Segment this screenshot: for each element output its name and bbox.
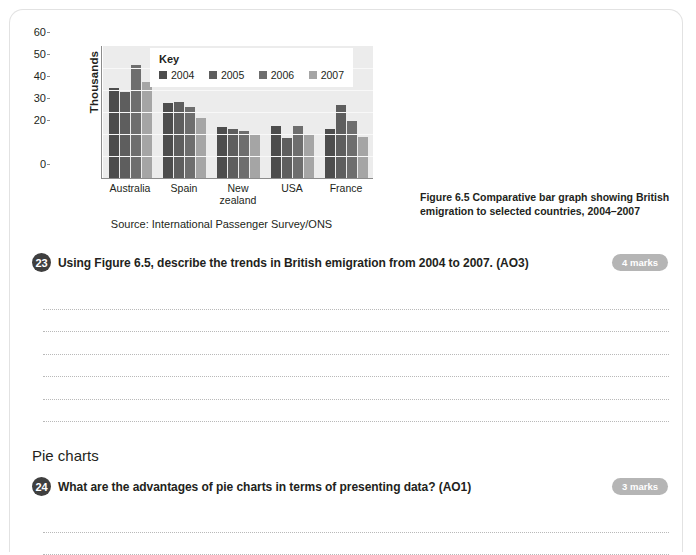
legend-items: 2004200520062007 xyxy=(159,69,344,81)
question-text-23: Using Figure 6.5, describe the trends in… xyxy=(58,256,612,270)
x-axis-label: Australia xyxy=(103,182,157,206)
question-row-24: 24 What are the advantages of pie charts… xyxy=(32,477,668,496)
x-axis-line xyxy=(101,178,373,179)
answer-line[interactable] xyxy=(43,377,669,400)
y-axis-title: Thousands xyxy=(88,34,100,130)
legend-title: Key xyxy=(159,53,344,65)
x-axis-label: France xyxy=(319,182,373,206)
answer-line[interactable] xyxy=(43,533,669,555)
question-text-24: What are the advantages of pie charts in… xyxy=(58,480,612,494)
y-tick-label: 30 xyxy=(34,92,46,104)
x-axis-label: Newzealand xyxy=(211,182,265,206)
legend-item-2005: 2005 xyxy=(209,69,244,81)
figure-block: Thousands 02030405060 AustraliaSpainNewz… xyxy=(54,32,674,237)
x-axis-label: USA xyxy=(265,182,319,206)
question-row-23: 23 Using Figure 6.5, describe the trends… xyxy=(32,253,668,272)
bar-france-2006 xyxy=(347,121,357,178)
question-number-24: 24 xyxy=(32,477,51,496)
bar-new-zealand-2005 xyxy=(228,129,238,178)
gridline xyxy=(103,156,373,157)
chart-legend: Key 2004200520062007 xyxy=(150,48,353,87)
y-tick-label: 60 xyxy=(34,26,46,38)
y-tick-label: 20 xyxy=(34,114,46,126)
question-number-23: 23 xyxy=(32,253,51,272)
figure-caption: Figure 6.5 Comparative bar graph showing… xyxy=(420,190,678,218)
y-tick-label: 50 xyxy=(34,48,46,60)
x-axis-labels: AustraliaSpainNewzealandUSAFrance xyxy=(103,182,373,206)
legend-label: 2006 xyxy=(271,69,294,81)
worksheet-card: Thousands 02030405060 AustraliaSpainNewz… xyxy=(9,9,683,552)
section-heading: Pie charts xyxy=(32,447,99,464)
bar-spain-2007 xyxy=(196,118,206,178)
gridline xyxy=(103,134,373,135)
bar-australia-2007 xyxy=(142,82,152,178)
legend-swatch-icon xyxy=(159,71,167,79)
bar-france-2004 xyxy=(325,129,335,178)
bar-spain-2004 xyxy=(163,103,173,178)
legend-swatch-icon xyxy=(209,71,217,79)
legend-label: 2007 xyxy=(321,69,344,81)
answer-line[interactable] xyxy=(43,355,669,378)
bar-australia-2004 xyxy=(109,88,119,178)
legend-item-2004: 2004 xyxy=(159,69,194,81)
bar-france-2005 xyxy=(336,105,346,178)
gridline xyxy=(103,90,373,91)
bar-france-2007 xyxy=(358,137,368,178)
legend-swatch-icon xyxy=(259,71,267,79)
answer-line[interactable] xyxy=(43,332,669,355)
legend-label: 2005 xyxy=(221,69,244,81)
legend-swatch-icon xyxy=(309,71,317,79)
answer-line[interactable] xyxy=(43,310,669,333)
y-tick-label: 40 xyxy=(34,70,46,82)
bar-chart: Thousands 02030405060 AustraliaSpainNewz… xyxy=(54,32,379,237)
answer-line[interactable] xyxy=(43,287,669,310)
legend-item-2006: 2006 xyxy=(259,69,294,81)
bar-australia-2006 xyxy=(131,65,141,178)
answer-lines-23[interactable] xyxy=(43,287,669,422)
marks-badge-23: 4 marks xyxy=(612,254,668,272)
bar-usa-2005 xyxy=(282,138,292,178)
chart-source: Source: International Passenger Survey/O… xyxy=(64,218,379,230)
legend-label: 2004 xyxy=(171,69,194,81)
answer-line[interactable] xyxy=(43,510,669,533)
y-axis-ticks: 02030405060 xyxy=(24,32,50,164)
x-axis-label: Spain xyxy=(157,182,211,206)
bar-spain-2006 xyxy=(185,107,195,178)
y-tick-label: 0 xyxy=(40,158,46,170)
marks-badge-24: 3 marks xyxy=(612,478,668,496)
answer-lines-24[interactable] xyxy=(43,510,669,555)
legend-item-2007: 2007 xyxy=(309,69,344,81)
bar-spain-2005 xyxy=(174,102,184,178)
bar-new-zealand-2006 xyxy=(239,131,249,178)
answer-line[interactable] xyxy=(43,400,669,423)
gridline xyxy=(103,112,373,113)
